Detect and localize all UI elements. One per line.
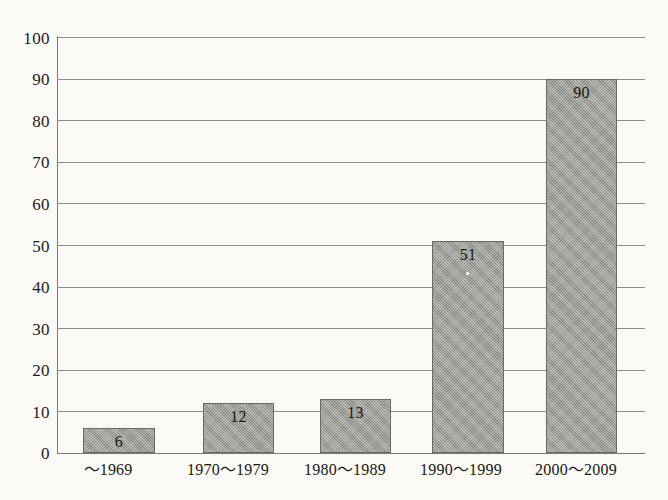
bar-1990-1999[interactable]: 51 [432,241,504,453]
bar-value-label: 51 [433,247,503,263]
y-tick-label-60: 60 [6,196,50,213]
bar-1980-1989[interactable]: 13 [320,399,391,453]
y-tick-label-10: 10 [6,404,50,421]
y-tick-label-30: 30 [6,321,50,338]
bar-value-label: 12 [204,409,273,425]
y-tick-label-70: 70 [6,154,50,171]
bar-2000-2009[interactable]: 90 [546,79,617,453]
bar-chart: 100 90 80 70 60 50 40 30 20 10 0 6 12 [0,0,668,500]
plot-area: 6 12 13 51 90 [57,37,645,453]
bar-value-label: 90 [547,85,616,101]
y-axis-tick-labels: 100 90 80 70 60 50 40 30 20 10 0 [0,0,50,500]
bar-1970-1979[interactable]: 12 [203,403,274,453]
y-tick-label-80: 80 [6,113,50,130]
x-tick-label-2000-2009: 2000〜2009 [496,461,656,479]
y-tick-label-100: 100 [6,30,50,47]
y-tick-label-20: 20 [6,362,50,379]
y-tick-label-50: 50 [6,238,50,255]
y-tick-label-40: 40 [6,279,50,296]
bar-value-label: 13 [321,405,390,421]
bar-value-label: 6 [84,434,154,450]
scan-speck [466,272,469,275]
y-tick-label-90: 90 [6,71,50,88]
bar-1969-and-earlier[interactable]: 6 [83,428,155,453]
gridline-100 [57,37,645,38]
gridline-baseline-0 [57,453,645,454]
y-tick-label-0: 0 [6,445,50,462]
